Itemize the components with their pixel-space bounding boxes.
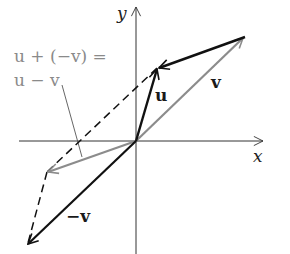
x-axis-label: x xyxy=(253,148,263,165)
vector-diagram: y x u v −v u + (−v) = u − v xyxy=(0,0,290,254)
annotation-leader-line xyxy=(62,85,82,157)
vector-v-label: v xyxy=(211,74,221,91)
annotation-line-1: u + (−v) = xyxy=(14,48,107,65)
vector-u-label: u xyxy=(155,87,167,104)
diagram-svg xyxy=(0,0,290,254)
vector-v-to-u xyxy=(159,37,245,68)
annotation-line-2: u − v xyxy=(14,72,60,89)
vector-u-minus-v xyxy=(48,141,136,172)
vector-neg-v-label: −v xyxy=(66,208,90,225)
y-axis-label: y xyxy=(117,5,127,22)
